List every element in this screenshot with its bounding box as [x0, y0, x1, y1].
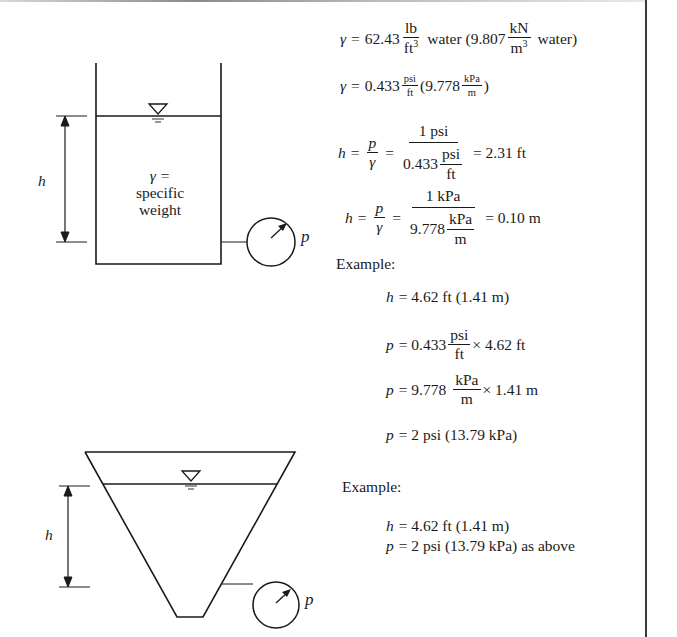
- conical-tank: [85, 452, 295, 617]
- pressure-gauge-icon: [222, 582, 299, 628]
- example1-pressure-result: p = 2 psi (13.79 kPa): [386, 427, 517, 443]
- tank2-height-dimension: [59, 486, 90, 587]
- tank1-gauge-label: p: [301, 227, 310, 247]
- head-result-imperial: = 2.31 ft: [473, 145, 526, 161]
- fluid-label-weight: weight: [115, 201, 205, 218]
- example1-head: h = 4.62 ft (1.41 m): [386, 289, 509, 305]
- unit-fraction: psi ft: [448, 327, 470, 363]
- water-surface-icon: [149, 104, 167, 122]
- fluid-label-gamma: γ =: [115, 167, 205, 184]
- head-fraction: 1 psi 0.433 psift: [401, 123, 466, 182]
- tank2-gauge-label: p: [305, 590, 314, 610]
- tank1-fluid-label: γ = specific weight: [115, 167, 205, 218]
- water-surface-icon: [182, 471, 200, 489]
- gamma-symbol: γ: [340, 78, 346, 94]
- equation-gamma-imperial: γ = 62.43 lb ft3 water (9.807 kN m3 wate…: [340, 20, 577, 57]
- tank1-height-label: h: [38, 172, 46, 190]
- head-result-metric: = 0.10 m: [485, 210, 541, 226]
- equation-gamma-pressure: γ = 0.433 psi ft (9.778 kPa m ): [340, 73, 489, 98]
- equation-head-metric: h = p γ = 1 kPa 9.778 kPam = 0.10 m: [345, 188, 541, 247]
- equation-head-imperial: h = p γ = 1 psi 0.433 psift = 2.31 ft: [338, 123, 526, 182]
- tank2-height-label: h: [45, 526, 53, 544]
- unit-fraction: psi ft: [402, 73, 418, 98]
- rectangular-tank: [96, 63, 221, 264]
- example2-head: h = 4.62 ft (1.41 m): [386, 518, 509, 534]
- gamma-symbol: γ: [340, 31, 346, 47]
- head-fraction: 1 kPa 9.778 kPam: [408, 188, 478, 247]
- tank1-height-dimension: [56, 116, 87, 242]
- tank2-walls: [85, 452, 295, 617]
- gamma-metric-text: water (9.807: [427, 31, 505, 47]
- pressure-gauge-icon: [221, 218, 295, 266]
- unit-fraction: kN m3: [508, 20, 531, 57]
- p-over-gamma: p γ: [367, 135, 379, 171]
- example2-pressure: p = 2 psi (13.79 kPa) as above: [386, 538, 575, 554]
- fluid-label-specific: specific: [115, 184, 205, 201]
- p-over-gamma: p γ: [374, 200, 386, 236]
- hydrostatic-diagram: [0, 0, 677, 637]
- example1-pressure-metric: p = 9.778 kPa m × 1.41 m: [386, 372, 538, 408]
- unit-fraction: lb ft3: [402, 20, 420, 57]
- example1-heading: Example:: [336, 256, 395, 272]
- example2-heading: Example:: [342, 479, 401, 495]
- gamma-value: 62.43: [365, 31, 400, 47]
- unit-fraction: kPa m: [453, 372, 480, 408]
- example1-pressure-imperial: p = 0.433 psi ft × 4.62 ft: [386, 327, 525, 363]
- equals-sign: =: [351, 31, 360, 47]
- unit-fraction: kPa m: [462, 73, 482, 98]
- tank1-walls: [96, 63, 221, 264]
